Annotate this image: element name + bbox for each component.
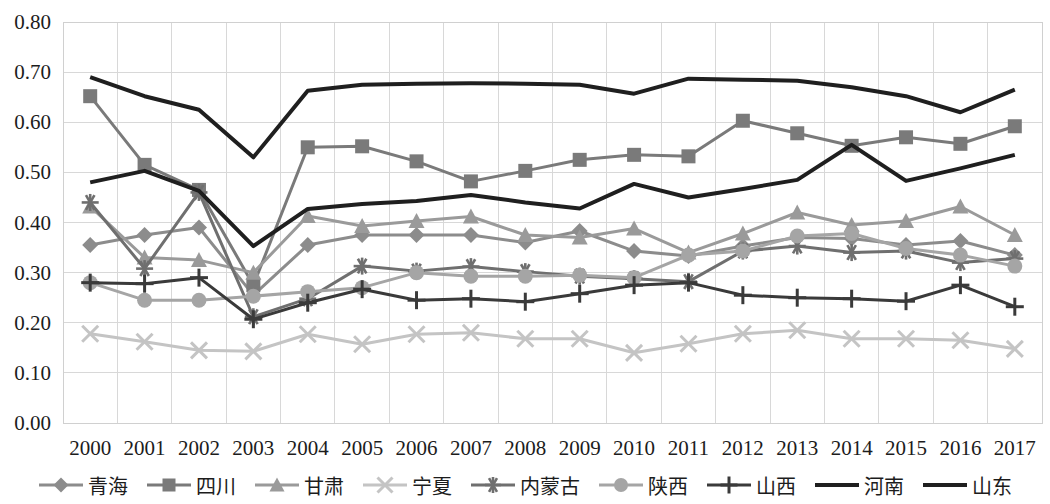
x-axis-tick-label: 2006 — [396, 436, 438, 460]
x-axis-tick-label: 2011 — [668, 436, 709, 460]
x-axis-tick-label: 2001 — [124, 436, 166, 460]
data-point-marker-diamond — [409, 227, 425, 243]
data-point-marker-square — [573, 153, 587, 167]
x-axis-tick-label: 2004 — [287, 436, 330, 460]
legend-swatch-star-icon — [470, 474, 516, 496]
legend-item-4[interactable]: 内蒙古 — [470, 471, 580, 500]
data-point-marker-circle — [790, 229, 805, 244]
data-point-marker-diamond — [463, 227, 479, 243]
data-point-marker-plus — [571, 285, 589, 303]
data-point-marker-square — [410, 154, 424, 168]
data-point-marker-square — [899, 130, 913, 144]
data-point-marker-circle — [681, 248, 696, 263]
x-axis-tick-label: 2010 — [613, 436, 655, 460]
data-point-marker-circle — [246, 289, 261, 304]
data-point-marker-circle — [735, 244, 750, 259]
data-point-marker-circle — [899, 241, 914, 256]
data-point-marker-triangle — [952, 198, 968, 213]
x-axis-tick-label: 2007 — [450, 436, 492, 460]
legend-label: 河南 — [864, 471, 904, 500]
legend-swatch-triangle-icon — [254, 474, 300, 496]
data-point-marker-square — [790, 126, 804, 140]
data-point-marker-square — [464, 174, 478, 188]
data-point-marker-plus — [721, 477, 738, 494]
data-point-marker-circle — [463, 269, 478, 284]
data-point-marker-circle — [1007, 259, 1022, 274]
x-axis-tick-label: 2014 — [831, 436, 874, 460]
legend-label: 宁夏 — [412, 471, 452, 500]
y-axis-tick-labels: 0.000.100.200.300.400.500.600.700.80 — [14, 10, 51, 435]
chart-plot-area: 0.000.100.200.300.400.500.600.700.80 200… — [0, 0, 1050, 466]
data-point-marker-square — [627, 148, 641, 162]
legend-item-0[interactable]: 青海 — [38, 471, 128, 500]
data-point-marker-square — [301, 140, 315, 154]
x-axis-tick-label: 2016 — [939, 436, 981, 460]
legend-item-5[interactable]: 陕西 — [598, 471, 688, 500]
data-point-marker-diamond — [82, 237, 98, 253]
data-point-marker-triangle — [735, 226, 751, 241]
legend-label: 内蒙古 — [520, 471, 580, 500]
x-axis-tick-label: 2015 — [885, 436, 927, 460]
y-axis-tick-label: 0.40 — [14, 211, 51, 235]
data-point-marker-circle — [844, 226, 859, 241]
data-point-marker-circle — [137, 293, 152, 308]
legend-label: 甘肃 — [304, 471, 344, 500]
data-point-marker-circle — [953, 248, 968, 263]
legend-swatch-diamond-icon — [38, 474, 84, 496]
data-point-marker-circle — [409, 265, 424, 280]
data-point-marker-plus — [897, 292, 915, 310]
legend-item-6[interactable]: 山西 — [706, 471, 796, 500]
legend-swatch-none-icon — [922, 474, 968, 496]
legend-label: 山东 — [972, 471, 1012, 500]
x-axis-tick-labels: 2000200120022003200420052006200720082009… — [69, 436, 1036, 460]
data-point-marker-plus — [353, 280, 371, 298]
x-axis-tick-label: 2012 — [722, 436, 764, 460]
data-point-marker-plus — [408, 291, 426, 309]
legend-label: 山西 — [756, 471, 796, 500]
legend-label: 四川 — [196, 471, 236, 500]
line-chart: 0.000.100.200.300.400.500.600.700.80 200… — [0, 0, 1050, 504]
x-axis-tick-label: 2003 — [232, 436, 274, 460]
data-point-marker-plus — [951, 276, 969, 294]
data-point-marker-square — [518, 164, 532, 178]
y-axis-tick-label: 0.20 — [14, 311, 51, 335]
legend-item-3[interactable]: 宁夏 — [362, 471, 452, 500]
x-axis-tick-label: 2005 — [341, 436, 383, 460]
x-axis-tick-label: 2009 — [559, 436, 601, 460]
legend-item-1[interactable]: 四川 — [146, 471, 236, 500]
data-point-marker-plus — [516, 293, 534, 311]
data-point-marker-triangle — [1007, 227, 1023, 242]
data-point-marker-plus — [462, 290, 480, 308]
data-point-marker-plus — [81, 274, 99, 292]
data-point-marker-square — [355, 139, 369, 153]
data-point-marker-star — [485, 477, 501, 493]
y-axis-tick-label: 0.70 — [14, 60, 51, 84]
x-axis-tick-label: 2002 — [178, 436, 220, 460]
legend-swatch-plus-icon — [706, 474, 752, 496]
y-axis-tick-label: 0.30 — [14, 261, 51, 285]
data-point-marker-star — [843, 244, 860, 261]
y-axis-tick-label: 0.50 — [14, 160, 51, 184]
data-point-marker-plus — [136, 275, 154, 293]
data-point-marker-square — [681, 149, 695, 163]
data-point-marker-square — [1008, 119, 1022, 133]
legend-item-7[interactable]: 河南 — [814, 471, 904, 500]
data-point-marker-square — [163, 479, 176, 492]
data-point-marker-circle — [614, 478, 628, 492]
legend-item-2[interactable]: 甘肃 — [254, 471, 344, 500]
data-point-marker-diamond — [952, 233, 968, 249]
data-point-marker-triangle — [789, 204, 805, 219]
data-point-marker-circle — [518, 269, 533, 284]
legend-label: 陕西 — [648, 471, 688, 500]
chart-legend: 青海四川甘肃宁夏内蒙古陕西山西河南山东 — [0, 466, 1050, 504]
legend-label: 青海 — [88, 471, 128, 500]
data-point-marker-square — [83, 89, 97, 103]
data-point-marker-star — [354, 258, 371, 275]
legend-item-8[interactable]: 山东 — [922, 471, 1012, 500]
legend-swatch-none-icon — [814, 474, 860, 496]
y-axis-tick-label: 0.80 — [14, 10, 51, 34]
data-point-marker-diamond — [54, 478, 69, 493]
x-axis-tick-label: 2000 — [69, 436, 111, 460]
data-point-marker-plus — [734, 286, 752, 304]
x-axis-tick-label: 2017 — [994, 436, 1036, 460]
